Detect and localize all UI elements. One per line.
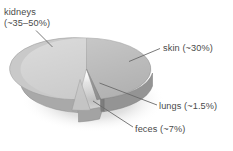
pie-side-wall-lungs <box>101 99 105 113</box>
pie-label-lungs: lungs (~1.5%) <box>159 101 217 112</box>
pie-label-kidneys: kidneys (~35–50%) <box>4 7 50 28</box>
pie-label-kidneys-name: kidneys <box>4 7 50 18</box>
pie-label-skin: skin (~30%) <box>163 43 213 54</box>
pie-label-lungs-text: lungs (~1.5%) <box>159 101 217 112</box>
pie-label-skin-text: skin (~30%) <box>163 43 213 54</box>
pie-label-feces-text: feces (~7%) <box>135 124 185 135</box>
pie-label-kidneys-value: (~35–50%) <box>4 18 50 29</box>
pie-slice-kidneys <box>10 38 87 100</box>
pie-label-feces: feces (~7%) <box>135 124 185 135</box>
